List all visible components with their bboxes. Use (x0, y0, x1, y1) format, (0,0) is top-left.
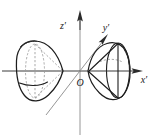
right-sheet-ruling-upper (89, 44, 119, 72)
z-prime-axis-label: z′ (59, 20, 67, 31)
origin-label: O (76, 77, 83, 88)
left-sheet-hidden-ruling-upper (35, 44, 63, 71)
y-prime-axis (46, 34, 108, 115)
z-prime-axis (77, 10, 83, 135)
y-prime-axis-label: y′ (102, 22, 110, 33)
labels-group: z′ y′ x′ O (59, 20, 148, 88)
x-prime-axis-label: x′ (140, 74, 148, 85)
figure-canvas: z′ y′ x′ O (0, 0, 156, 138)
x-prime-axis (2, 68, 143, 73)
hyperboloid-diagram: z′ y′ x′ O (0, 0, 156, 138)
axes-group (2, 10, 143, 135)
